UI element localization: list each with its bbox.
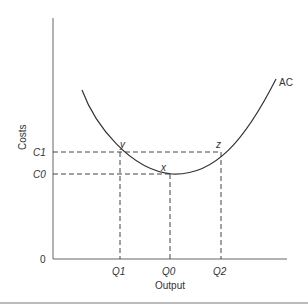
point-z-label: z bbox=[215, 139, 221, 150]
y-tick-c0: C0 bbox=[33, 169, 46, 180]
ac-curve bbox=[82, 79, 276, 174]
y-tick-c1: C1 bbox=[33, 147, 46, 158]
x-tick-q1: Q1 bbox=[112, 266, 125, 277]
x-tick-q2: Q2 bbox=[213, 266, 227, 277]
x-tick-q0: Q0 bbox=[162, 266, 176, 277]
x-axis-title: Output bbox=[155, 280, 185, 291]
point-y-label: y bbox=[119, 139, 126, 150]
y-axis-title: Costs bbox=[17, 124, 28, 150]
origin-label: 0 bbox=[40, 254, 46, 265]
point-x-label: x bbox=[160, 162, 167, 173]
average-cost-diagram: AC y x z C1 C0 0 Q1 Q0 Q2 Output Costs bbox=[0, 0, 308, 306]
ac-curve-label: AC bbox=[279, 77, 293, 88]
